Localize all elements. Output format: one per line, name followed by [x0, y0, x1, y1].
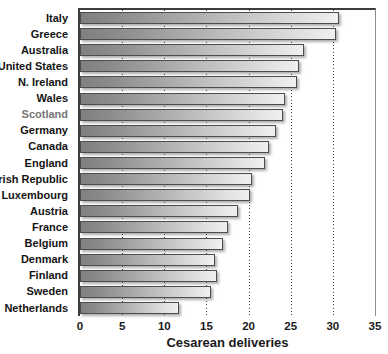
category-label-canada: Canada [28, 141, 73, 152]
category-label-sweden: Sweden [26, 286, 73, 297]
label-row: Luxembourg [0, 187, 73, 203]
label-row: Australia [0, 42, 73, 58]
bar-australia [80, 44, 304, 56]
category-label-luxembourg: Luxembourg [1, 190, 73, 201]
label-row: Canada [0, 139, 73, 155]
x-tick-label-30: 30 [326, 321, 339, 333]
bar-england [80, 157, 265, 169]
bar-row [80, 10, 375, 26]
bar-row [80, 74, 375, 90]
x-tick-label-5: 5 [119, 321, 125, 333]
bar-sweden [80, 286, 211, 298]
label-row: United States [0, 58, 73, 74]
category-label-australia: Australia [21, 45, 73, 56]
label-row: Wales [0, 91, 73, 107]
bar-canada [80, 141, 269, 153]
label-row: Netherlands [0, 300, 73, 316]
bar-irish-republic [80, 173, 252, 185]
category-label-wales: Wales [37, 93, 73, 104]
bar-belgium [80, 238, 223, 250]
bar-row [80, 123, 375, 139]
bar-row [80, 58, 375, 74]
bar-row [80, 42, 375, 58]
bar-united-states [80, 60, 299, 72]
bar-row [80, 219, 375, 235]
category-label-irish-republic: Irish Republic [0, 174, 73, 185]
bar-row [80, 236, 375, 252]
x-tick-label-25: 25 [284, 321, 297, 333]
label-row: Belgium [0, 236, 73, 252]
category-label-italy: Italy [46, 13, 73, 24]
category-label-france: France [32, 222, 73, 233]
bar-luxembourg [80, 189, 250, 201]
x-tick-label-15: 15 [200, 321, 213, 333]
category-label-germany: Germany [20, 125, 73, 136]
x-tick-label-0: 0 [77, 321, 83, 333]
x-axis-title: Cesarean deliveries [79, 336, 376, 349]
category-label-netherlands: Netherlands [4, 303, 73, 314]
bar-row [80, 139, 375, 155]
bar-row [80, 26, 375, 42]
bar-denmark [80, 254, 215, 266]
bar-austria [80, 205, 238, 217]
category-label-belgium: Belgium [25, 238, 73, 249]
label-row: N. Ireland [0, 74, 73, 90]
bar-row [80, 284, 375, 300]
bar-row [80, 155, 375, 171]
category-label-n-ireland: N. Ireland [18, 77, 73, 88]
label-row: Sweden [0, 284, 73, 300]
category-label-england: England [25, 158, 73, 169]
label-row: Germany [0, 123, 73, 139]
label-row: Greece [0, 26, 73, 42]
bar-germany [80, 125, 276, 137]
bar-france [80, 221, 228, 233]
plot-area [78, 8, 376, 316]
bar-finland [80, 270, 217, 282]
label-row: France [0, 219, 73, 235]
bar-row [80, 252, 375, 268]
cesarean-deliveries-bar-chart: ItalyGreeceAustraliaUnited StatesN. Irel… [0, 0, 388, 354]
bar-row [80, 268, 375, 284]
category-label-scotland: Scotland [22, 109, 73, 120]
bar-wales [80, 93, 285, 105]
category-label-finland: Finland [29, 270, 73, 281]
x-tick-label-35: 35 [369, 321, 382, 333]
category-label-united-states: United States [0, 61, 73, 72]
label-row: Scotland [0, 107, 73, 123]
bar-row [80, 203, 375, 219]
bar-row [80, 91, 375, 107]
label-row: England [0, 155, 73, 171]
label-row: Denmark [0, 252, 73, 268]
category-label-denmark: Denmark [21, 254, 73, 265]
y-axis-category-labels: ItalyGreeceAustraliaUnited StatesN. Irel… [0, 10, 73, 316]
label-row: Italy [0, 10, 73, 26]
bar-row [80, 300, 375, 316]
bar-row [80, 171, 375, 187]
x-axis-tick-labels: 05101520253035 [0, 321, 388, 334]
label-row: Irish Republic [0, 171, 73, 187]
bar-row [80, 187, 375, 203]
bar-italy [80, 12, 339, 24]
bar-n-ireland [80, 76, 297, 88]
bar-row [80, 107, 375, 123]
category-label-austria: Austria [30, 206, 73, 217]
label-row: Austria [0, 203, 73, 219]
bar-netherlands [80, 302, 179, 314]
x-tick-label-20: 20 [242, 321, 255, 333]
label-row: Finland [0, 268, 73, 284]
bar-greece [80, 28, 336, 40]
category-label-greece: Greece [31, 29, 73, 40]
bar-scotland [80, 109, 283, 121]
x-tick-label-10: 10 [158, 321, 171, 333]
bar-series [80, 10, 375, 316]
